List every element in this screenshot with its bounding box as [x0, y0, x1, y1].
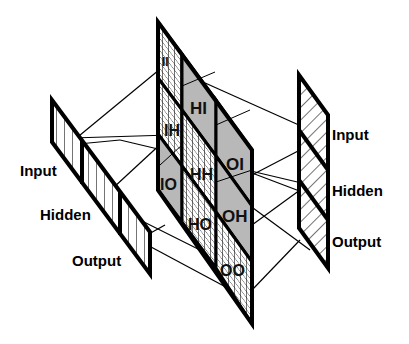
left-label-hidden: Hidden: [40, 206, 91, 223]
connection-matrix-diagram: II HI OI IH HH OH IO HO OO Input Hidden …: [0, 0, 409, 344]
left-vector: [52, 100, 150, 274]
right-vector: [299, 75, 328, 268]
block-label-HI: HI: [190, 99, 207, 118]
block-label-IO: IO: [160, 176, 177, 193]
left-label-input: Input: [20, 162, 57, 179]
connection-matrix: II HI OI IH HH OH IO HO OO: [158, 22, 252, 324]
block-label-OH: OH: [222, 207, 248, 226]
block-label-HO: HO: [188, 216, 212, 233]
block-label-II: II: [162, 55, 169, 69]
left-label-output: Output: [72, 252, 121, 269]
right-label-hidden: Hidden: [332, 182, 383, 199]
right-label-input: Input: [332, 126, 369, 143]
block-label-OI: OI: [226, 155, 244, 174]
block-label-IH: IH: [164, 122, 180, 139]
block-label-HH: HH: [190, 166, 213, 183]
right-label-output: Output: [332, 233, 381, 250]
block-label-OO: OO: [220, 262, 245, 279]
